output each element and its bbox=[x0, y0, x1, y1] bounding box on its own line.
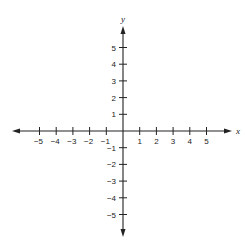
x-tick-label: −5 bbox=[34, 137, 44, 146]
y-tick-label: 4 bbox=[112, 60, 117, 69]
y-tick-label: −5 bbox=[107, 211, 117, 220]
y-tick-label: 3 bbox=[112, 77, 117, 86]
axes bbox=[12, 26, 232, 237]
y-axis-up-arrow-icon bbox=[121, 26, 126, 34]
x-tick-label: −3 bbox=[67, 137, 77, 146]
y-axis-down-arrow-icon bbox=[121, 229, 126, 237]
x-tick-label: 4 bbox=[188, 137, 193, 146]
y-tick-label: 2 bbox=[112, 94, 117, 103]
coordinate-plane: −5−4−3−2−112345 54321−1−2−3−4−5 x y bbox=[0, 0, 245, 242]
x-tick-label: −4 bbox=[51, 137, 61, 146]
x-axis-label: x bbox=[235, 126, 240, 136]
x-axis-left-arrow-icon bbox=[12, 129, 20, 134]
x-axis-ticks: −5−4−3−2−112345 bbox=[34, 127, 209, 146]
y-tick-label: 5 bbox=[112, 44, 117, 53]
x-tick-label: 2 bbox=[154, 137, 159, 146]
x-tick-label: −2 bbox=[84, 137, 94, 146]
y-tick-label: −1 bbox=[107, 144, 117, 153]
y-tick-label: −3 bbox=[107, 177, 117, 186]
y-tick-label: −2 bbox=[107, 160, 117, 169]
x-tick-label: 5 bbox=[204, 137, 209, 146]
y-tick-label: −4 bbox=[107, 194, 117, 203]
y-tick-label: 1 bbox=[112, 110, 117, 119]
y-axis-label: y bbox=[120, 14, 125, 24]
x-tick-label: 1 bbox=[137, 137, 142, 146]
x-axis-right-arrow-icon bbox=[224, 129, 232, 134]
x-tick-label: 3 bbox=[171, 137, 176, 146]
